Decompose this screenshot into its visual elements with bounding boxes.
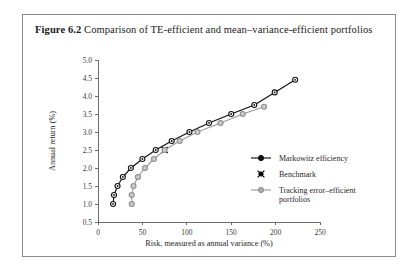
- data-point-core: [253, 104, 255, 106]
- series-line: [132, 107, 264, 204]
- data-point-core: [230, 113, 232, 115]
- data-point-marker: [195, 130, 200, 135]
- legend-entry-label: Tracking error–efficient: [279, 186, 356, 195]
- y-tick-label: 1.0: [83, 200, 93, 209]
- x-axis-ticks: 050100150200250: [96, 222, 326, 237]
- legend-entry-label-continued: portfolios: [279, 195, 310, 204]
- x-axis-title: Risk, measured as annual variance (%): [145, 239, 273, 248]
- y-tick-label: 3.5: [83, 110, 93, 119]
- data-point-core: [189, 131, 191, 133]
- chart-legend: Markowitz efficiencyBenchmarkTracking er…: [251, 154, 356, 204]
- y-tick-label: 4.5: [83, 74, 93, 83]
- legend-marker-tracking: [258, 187, 263, 192]
- data-point-marker: [262, 104, 267, 109]
- y-axis-title: Annual return (%): [48, 111, 57, 171]
- legend-entry-label: Benchmark: [279, 170, 316, 179]
- data-point-core: [122, 176, 124, 178]
- y-tick-label: 5.0: [83, 56, 93, 65]
- y-tick-label: 0.5: [83, 218, 93, 227]
- x-tick-label: 150: [226, 228, 238, 237]
- data-point-marker: [218, 121, 223, 126]
- data-point-marker: [143, 166, 148, 171]
- chart-svg: 0.51.01.52.02.53.03.54.04.55.0 050100150…: [23, 15, 397, 258]
- x-tick-label: 200: [270, 228, 282, 237]
- y-tick-label: 2.5: [83, 146, 93, 155]
- legend-marker-markowitz: [258, 155, 263, 160]
- data-point-marker: [129, 193, 134, 198]
- data-point-core: [294, 79, 296, 81]
- data-point-marker: [129, 202, 134, 207]
- data-point-core: [112, 203, 114, 205]
- x-tick-label: 100: [181, 228, 193, 237]
- legend-marker-benchmark-core: [259, 172, 263, 176]
- x-tick-label: 250: [314, 228, 326, 237]
- legend-entry-label: Markowitz efficiency: [279, 154, 348, 163]
- data-point-core: [155, 149, 157, 151]
- data-point-core: [130, 167, 132, 169]
- data-point-core: [208, 122, 210, 124]
- data-point-core: [171, 140, 173, 142]
- y-tick-label: 3.0: [83, 128, 93, 137]
- y-axis-ticks: 0.51.01.52.02.53.03.54.04.55.0: [83, 56, 98, 227]
- data-point-marker: [135, 175, 140, 180]
- chart-plot-area: 0.51.01.52.02.53.03.54.04.55.0 050100150…: [23, 15, 397, 258]
- data-point-marker: [151, 157, 156, 162]
- data-point-core: [274, 92, 276, 94]
- chart-series-group: [111, 77, 298, 206]
- y-tick-label: 4.0: [83, 92, 93, 101]
- figure-container: Figure 6.2 Comparison of TE-efficient an…: [22, 14, 396, 257]
- y-tick-label: 2.0: [83, 164, 93, 173]
- series-line: [113, 80, 295, 204]
- data-point-core: [113, 194, 115, 196]
- data-point-marker: [177, 139, 182, 144]
- data-point-marker: [131, 184, 136, 189]
- x-tick-label: 0: [96, 228, 100, 237]
- data-point-core: [142, 158, 144, 160]
- y-tick-label: 1.5: [83, 182, 93, 191]
- x-tick-label: 50: [139, 228, 147, 237]
- data-point-core: [117, 185, 119, 187]
- data-point-marker: [162, 148, 167, 153]
- data-point-marker: [240, 112, 245, 117]
